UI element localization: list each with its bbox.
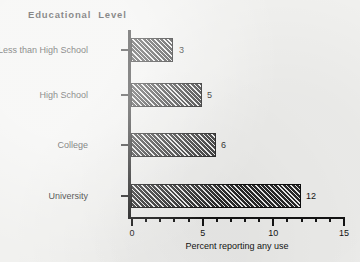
x-axis-minor-tick [286,217,288,222]
y-axis-tick-mark [121,49,129,51]
bar-row: University 12 [0,184,360,208]
x-axis-tick-mark [272,217,274,226]
bar-row: High School 5 [0,83,360,107]
x-axis-minor-tick [315,217,317,222]
y-axis-tick-mark [121,195,129,197]
y-axis-tick-mark [121,144,129,146]
bar-value-label: 5 [207,90,212,100]
bar [131,133,216,157]
x-axis-minor-tick [173,217,175,222]
x-axis-tick-label: 15 [339,228,349,238]
x-axis-tick-label: 0 [129,228,134,238]
y-axis-tick-label: Less than High School [0,45,88,55]
bar-value-label: 12 [306,191,316,201]
x-axis-minor-tick [329,217,331,222]
x-axis-minor-tick [230,217,232,222]
bar-value-label: 3 [179,45,184,55]
bar [131,38,173,62]
x-axis-line [131,217,343,219]
y-axis-tick-label: High School [39,90,88,100]
bar-row: Less than High School 3 [0,38,360,62]
bar [131,184,301,208]
x-axis-tick-label: 5 [200,228,205,238]
bar-chart: Educational Level Less than High School … [0,0,360,262]
x-axis-minor-tick [216,217,218,222]
bar-value-label: 6 [221,140,226,150]
x-axis-tick-mark [131,217,133,226]
x-axis-minor-tick [258,217,260,222]
y-axis-tick-label: College [57,140,88,150]
chart-title: Educational Level [28,9,127,20]
x-axis-tick-label: 10 [268,228,278,238]
x-axis-title: Percent reporting any use [131,241,343,251]
y-axis-tick-mark [121,94,129,96]
y-axis-tick-label: University [48,191,88,201]
bar [131,83,202,107]
x-axis-tick-mark [202,217,204,226]
x-axis-tick-mark [343,217,345,226]
x-axis-minor-tick [159,217,161,222]
x-axis-minor-tick [244,217,246,222]
x-axis-minor-tick [301,217,303,222]
x-axis-minor-tick [145,217,147,222]
x-axis-minor-tick [188,217,190,222]
bar-row: College 6 [0,133,360,157]
